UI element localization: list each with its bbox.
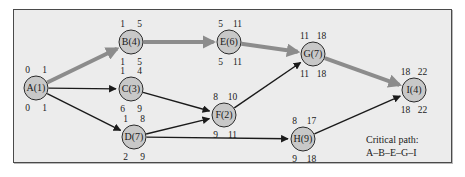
early-finish-b: 5 <box>137 19 142 29</box>
edge-a-to-d <box>47 94 120 131</box>
node-label-b: B(4) <box>122 36 140 48</box>
node-label-c: C(3) <box>122 83 140 95</box>
early-finish-g: 18 <box>317 31 327 41</box>
early-finish-f: 10 <box>228 92 238 102</box>
late-start-h: 9 <box>292 154 297 164</box>
critical-path-caption-line1: Critical path: <box>366 134 419 145</box>
node-label-a: A(1) <box>27 82 46 94</box>
early-start-g: 11 <box>300 31 309 41</box>
early-finish-d: 8 <box>140 114 145 124</box>
early-start-d: 1 <box>123 114 128 124</box>
edge-g-to-i <box>325 58 400 85</box>
node-f: F(2)810911 <box>212 92 238 141</box>
node-a: A(1)0101 <box>24 65 48 114</box>
network-graph: A(1)0101B(4)1515C(3)1469D(7)1829E(6)5115… <box>0 0 465 177</box>
late-start-e: 5 <box>218 57 223 67</box>
early-finish-c: 4 <box>137 66 142 76</box>
edge-h-to-i <box>314 96 400 134</box>
node-e: E(6)511511 <box>217 19 242 68</box>
edge-e-to-g <box>241 44 297 52</box>
late-finish-d: 9 <box>140 152 145 162</box>
node-b: B(4)1515 <box>119 19 143 68</box>
node-label-g: G(7) <box>304 48 323 60</box>
node-label-d: D(7) <box>125 131 144 143</box>
early-finish-e: 11 <box>233 19 242 29</box>
node-h: H(9)817918 <box>291 116 317 165</box>
node-label-f: F(2) <box>215 109 232 121</box>
activity-network-figure: A(1)0101B(4)1515C(3)1469D(7)1829E(6)5115… <box>0 0 465 177</box>
node-d: D(7)1829 <box>122 114 146 163</box>
early-start-f: 8 <box>213 92 218 102</box>
node-label-h: H(9) <box>294 133 313 145</box>
edge-f-to-g <box>234 62 300 107</box>
critical-path-caption-line2: A–B–E–G–I <box>366 147 417 158</box>
node-g: G(7)11181118 <box>300 31 327 80</box>
edge-c-to-f <box>143 92 210 111</box>
late-finish-c: 9 <box>137 104 142 114</box>
late-start-i: 18 <box>401 105 411 115</box>
early-finish-h: 17 <box>307 116 317 126</box>
early-start-a: 0 <box>25 65 30 75</box>
node-c: C(3)1469 <box>119 66 143 115</box>
node-label-e: E(6) <box>220 36 238 48</box>
late-finish-a: 1 <box>42 103 47 113</box>
late-start-d: 2 <box>123 152 128 162</box>
early-finish-i: 22 <box>418 67 428 77</box>
edge-d-to-f <box>146 119 209 134</box>
late-finish-i: 22 <box>418 105 428 115</box>
edge-a-to-b <box>47 49 117 83</box>
late-start-a: 0 <box>25 103 30 113</box>
late-start-g: 11 <box>300 69 309 79</box>
node-label-i: I(4) <box>407 84 422 96</box>
late-finish-f: 11 <box>228 130 237 140</box>
early-start-b: 1 <box>120 19 125 29</box>
early-start-c: 1 <box>120 66 125 76</box>
late-start-c: 6 <box>120 104 125 114</box>
late-finish-e: 11 <box>233 57 242 67</box>
late-finish-g: 18 <box>317 69 327 79</box>
early-start-e: 5 <box>218 19 223 29</box>
node-i: I(4)18221822 <box>401 67 428 116</box>
edge-a-to-c <box>49 88 117 89</box>
late-finish-h: 18 <box>307 154 317 164</box>
late-start-f: 9 <box>213 130 218 140</box>
early-start-i: 18 <box>401 67 411 77</box>
early-start-h: 8 <box>292 116 297 126</box>
early-finish-a: 1 <box>42 65 47 75</box>
